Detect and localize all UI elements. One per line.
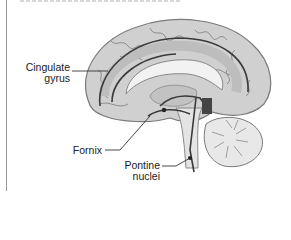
cerebellum (204, 117, 262, 166)
dark-nucleus (202, 98, 212, 114)
label-pontine-line2: nuclei (116, 171, 160, 182)
label-cingulate-gyrus: Cingulate gyrus (22, 62, 70, 84)
label-fornix-text: Fornix (60, 145, 102, 156)
label-cingulate-line2: gyrus (22, 73, 70, 84)
label-fornix: Fornix (60, 145, 102, 156)
fornix-dot (162, 108, 166, 112)
label-pontine-nuclei: Pontine nuclei (116, 160, 160, 182)
